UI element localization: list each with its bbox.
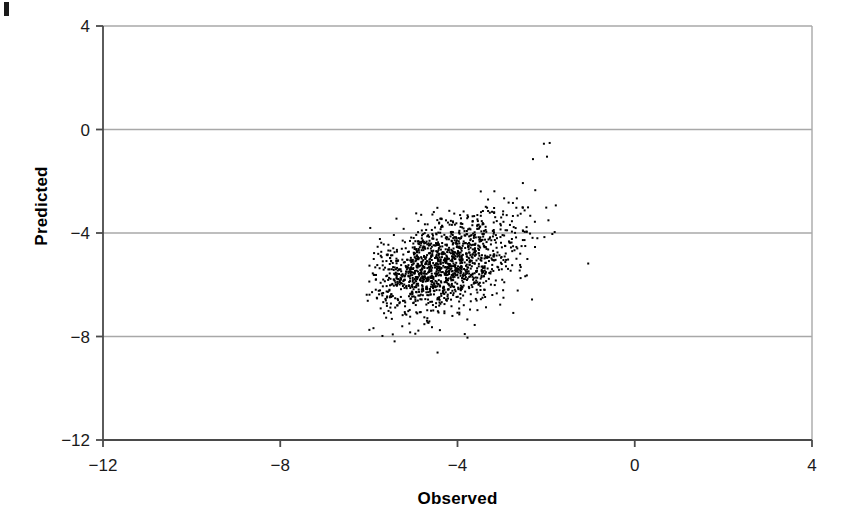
data-points-group: [366, 142, 590, 354]
data-point: [404, 241, 406, 243]
data-point: [495, 234, 497, 236]
data-point: [449, 251, 451, 253]
x-tick-label-0: 0: [630, 456, 639, 475]
data-point: [454, 269, 456, 271]
data-point: [460, 275, 462, 277]
data-point: [429, 240, 431, 242]
data-point: [504, 261, 506, 263]
data-point: [516, 247, 518, 249]
data-point: [471, 286, 473, 288]
data-point: [445, 248, 447, 250]
data-point: [387, 291, 389, 293]
data-point: [425, 304, 427, 306]
data-point: [448, 210, 450, 212]
data-point: [412, 259, 414, 261]
data-point: [430, 293, 432, 295]
data-point: [474, 262, 476, 264]
page-edge-mark-icon: [4, 2, 9, 16]
data-point: [423, 255, 425, 257]
data-point: [419, 298, 421, 300]
data-point: [388, 289, 390, 291]
data-point: [396, 251, 398, 253]
data-point: [472, 273, 474, 275]
data-point: [446, 268, 448, 270]
data-point: [431, 259, 433, 261]
data-point: [469, 264, 471, 266]
data-point: [448, 283, 450, 285]
data-point: [450, 220, 452, 222]
data-point: [400, 278, 402, 280]
data-point: [438, 279, 440, 281]
data-point: [418, 273, 420, 275]
data-point: [431, 275, 433, 277]
data-point: [412, 302, 414, 304]
data-point: [404, 279, 406, 281]
data-point: [489, 212, 491, 214]
data-point: [516, 197, 518, 199]
data-point: [495, 242, 497, 244]
data-point: [425, 291, 427, 293]
data-point: [375, 279, 377, 281]
data-point: [441, 267, 443, 269]
data-point: [481, 254, 483, 256]
data-point: [401, 325, 403, 327]
data-point: [492, 270, 494, 272]
data-point: [512, 215, 514, 217]
data-point: [435, 271, 437, 273]
data-point: [390, 303, 392, 305]
data-point: [387, 250, 389, 252]
data-point: [401, 283, 403, 285]
data-point: [462, 245, 464, 247]
y-axis-title: Predicted: [32, 146, 52, 266]
data-point: [387, 244, 389, 246]
y-tick-label--8: −8: [71, 328, 90, 347]
data-point: [549, 142, 551, 144]
x-axis-title: Observed: [103, 489, 812, 509]
data-point: [435, 306, 437, 308]
data-point: [373, 258, 375, 260]
data-point: [476, 309, 478, 311]
data-point: [436, 289, 438, 291]
data-point: [461, 250, 463, 252]
data-point: [437, 250, 439, 252]
data-point: [429, 252, 431, 254]
data-point: [405, 273, 407, 275]
data-point: [536, 237, 538, 239]
data-point: [499, 236, 501, 238]
data-point: [532, 158, 534, 160]
data-point: [543, 143, 545, 145]
data-point: [437, 297, 439, 299]
data-point: [406, 268, 408, 270]
data-point: [443, 303, 445, 305]
data-point: [435, 242, 437, 244]
data-point: [438, 222, 440, 224]
scatter-plot-figure: −12−8−404−12−8−404 Predicted Observed: [0, 0, 849, 531]
data-point: [450, 292, 452, 294]
data-point: [437, 352, 439, 354]
data-point: [445, 298, 447, 300]
data-point: [454, 237, 456, 239]
data-point: [368, 294, 370, 296]
data-point: [386, 295, 388, 297]
data-point: [391, 254, 393, 256]
data-point: [418, 291, 420, 293]
data-point: [480, 278, 482, 280]
data-point: [400, 288, 402, 290]
data-point: [440, 261, 442, 263]
data-point: [380, 282, 382, 284]
data-point: [439, 256, 441, 258]
data-point: [461, 255, 463, 257]
data-point: [529, 215, 531, 217]
data-point: [448, 277, 450, 279]
data-point: [402, 254, 404, 256]
data-point: [396, 249, 398, 251]
data-point: [465, 276, 467, 278]
data-point: [503, 281, 505, 283]
data-point: [451, 250, 453, 252]
data-point: [422, 241, 424, 243]
data-point: [439, 286, 441, 288]
data-point: [388, 310, 390, 312]
data-point: [476, 214, 478, 216]
data-point: [393, 234, 395, 236]
data-point: [400, 264, 402, 266]
